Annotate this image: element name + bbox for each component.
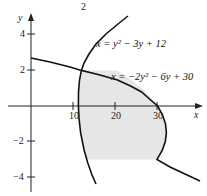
figure-number: 2 bbox=[81, 1, 86, 12]
y-tick-2: 2 bbox=[20, 64, 25, 75]
x-tick-10: 10 bbox=[69, 110, 79, 121]
curve-2-label: x = −2y² − 6y + 30 bbox=[110, 71, 194, 82]
x-axis-label: x bbox=[193, 109, 199, 120]
y-axis-label: y bbox=[17, 12, 23, 23]
y-tick-neg4: −4 bbox=[13, 171, 24, 182]
x-tick-30: 30 bbox=[153, 110, 163, 121]
x-tick-20: 20 bbox=[111, 110, 121, 121]
curve-1-label: x = y² − 3y + 12 bbox=[95, 38, 167, 49]
y-tick-4: 4 bbox=[20, 28, 25, 39]
y-tick-neg2: −2 bbox=[13, 135, 24, 146]
y-axis-arrow-icon bbox=[28, 13, 34, 21]
chart: 2 y x 10 20 30 4 2 −2 −4 x = y² − 3y + 1… bbox=[0, 0, 207, 196]
